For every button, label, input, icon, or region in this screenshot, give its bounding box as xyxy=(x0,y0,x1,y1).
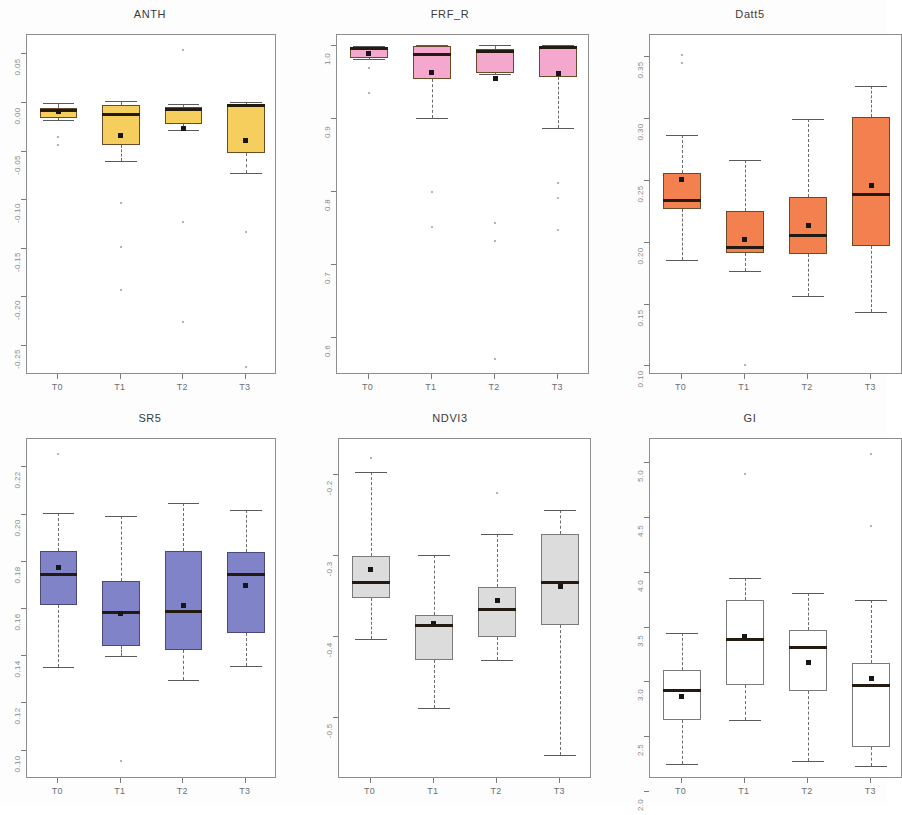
upper-whisker xyxy=(745,160,746,211)
y-axis-tick-label: 0.15 xyxy=(635,304,647,332)
lower-whisker xyxy=(682,720,683,764)
upper-whisker xyxy=(682,633,683,670)
lower-whisker-cap xyxy=(855,312,887,313)
median-line xyxy=(40,573,78,576)
upper-whisker xyxy=(58,513,59,551)
upper-whisker-cap xyxy=(168,503,200,504)
lower-whisker xyxy=(808,691,809,761)
upper-whisker xyxy=(808,119,809,197)
outlier-point xyxy=(120,246,122,248)
x-axis-tick xyxy=(120,778,121,783)
upper-whisker xyxy=(682,135,683,173)
mean-marker xyxy=(495,598,500,603)
lower-whisker-cap xyxy=(544,755,576,756)
upper-whisker-cap xyxy=(230,102,262,103)
x-axis-tick xyxy=(368,374,369,379)
mean-marker xyxy=(243,583,248,588)
x-axis-tick-label: T3 xyxy=(537,382,577,392)
y-axis-tick-label: -0.3 xyxy=(324,555,336,583)
mean-marker xyxy=(118,133,123,138)
panel-title: NDVI3 xyxy=(300,412,600,424)
lower-whisker xyxy=(871,246,872,312)
upper-whisker xyxy=(183,503,184,551)
lower-whisker xyxy=(745,685,746,720)
median-line xyxy=(539,46,577,49)
lower-whisker xyxy=(558,77,559,128)
mean-marker xyxy=(869,183,874,188)
upper-whisker xyxy=(871,600,872,663)
y-axis-tick-label: 0.05 xyxy=(12,53,24,81)
y-axis-tick-label: 2.0 xyxy=(635,791,647,815)
lower-whisker-cap xyxy=(729,271,761,272)
x-axis-tick-label: T1 xyxy=(413,786,453,796)
median-line xyxy=(165,108,203,111)
x-axis-tick-label: T2 xyxy=(787,382,827,392)
panel-sr5: SR50.220.200.180.160.140.120.10T0T1T2T3 xyxy=(0,404,300,804)
outlier-point xyxy=(245,231,247,233)
upper-whisker-cap xyxy=(418,555,450,556)
x-axis-tick xyxy=(245,778,246,783)
lower-whisker xyxy=(434,660,435,708)
mean-marker xyxy=(806,223,811,228)
lower-whisker xyxy=(246,153,247,173)
y-axis-tick-label: 0.00 xyxy=(12,102,24,130)
y-axis-tick-label: 3.5 xyxy=(635,627,647,655)
x-axis-tick xyxy=(807,778,808,783)
mean-marker xyxy=(558,584,563,589)
x-axis-tick xyxy=(431,374,432,379)
mean-marker xyxy=(742,237,747,242)
lower-whisker-cap xyxy=(792,296,824,297)
upper-whisker-cap xyxy=(105,101,137,102)
y-axis-tick-label: 0.12 xyxy=(12,702,24,730)
outlier-point xyxy=(431,191,433,193)
median-line xyxy=(227,573,265,576)
lower-whisker-cap xyxy=(230,173,262,174)
upper-whisker-cap xyxy=(729,160,761,161)
lower-whisker-cap xyxy=(666,260,698,261)
x-axis-tick-label: T2 xyxy=(474,382,514,392)
y-axis-tick-label: 0.20 xyxy=(635,242,647,270)
x-axis-tick-label: T2 xyxy=(162,382,202,392)
lower-whisker xyxy=(497,637,498,660)
mean-marker xyxy=(368,567,373,572)
plot-area xyxy=(649,438,902,778)
x-axis-tick-label: T3 xyxy=(225,786,265,796)
lower-whisker-cap xyxy=(105,161,137,162)
x-axis-tick-label: T3 xyxy=(850,382,890,392)
mean-marker xyxy=(679,177,684,182)
lower-whisker xyxy=(183,650,184,680)
box-T2 xyxy=(165,551,203,650)
x-axis-tick-label: T1 xyxy=(411,382,451,392)
x-axis-tick-label: T0 xyxy=(37,382,77,392)
y-axis-tick-label: 0.22 xyxy=(12,466,24,494)
median-line xyxy=(102,113,140,116)
panel-ndvi3: NDVI3-0.2-0.3-0.4-0.5T0T1T2T3 xyxy=(300,404,600,804)
y-axis-tick-label: 0.16 xyxy=(12,608,24,636)
lower-whisker xyxy=(432,79,433,118)
lower-whisker-cap xyxy=(43,120,75,121)
y-axis-tick-label: 0.7 xyxy=(322,264,334,292)
outlier-point xyxy=(681,54,683,56)
mean-marker xyxy=(429,70,434,75)
x-axis-tick xyxy=(681,374,682,379)
upper-whisker xyxy=(371,472,372,556)
panel-title: SR5 xyxy=(0,412,300,424)
plot-area xyxy=(338,438,591,778)
upper-whisker-cap xyxy=(105,516,137,517)
x-axis-tick xyxy=(370,778,371,783)
outlier-point xyxy=(744,364,746,366)
x-axis-tick-label: T2 xyxy=(476,786,516,796)
y-axis-tick-label: -0.25 xyxy=(12,345,24,373)
x-axis-tick-label: T1 xyxy=(100,382,140,392)
lower-whisker-cap xyxy=(792,761,824,762)
x-axis-tick-label: T0 xyxy=(348,382,388,392)
upper-whisker-cap xyxy=(792,593,824,594)
lower-whisker-cap xyxy=(43,667,75,668)
y-axis-tick-label: -0.4 xyxy=(324,636,336,664)
outlier-point xyxy=(120,202,122,204)
median-line xyxy=(789,234,827,237)
x-axis-tick-label: T2 xyxy=(787,786,827,796)
outlier-point xyxy=(120,760,122,762)
box-T3 xyxy=(541,534,579,625)
y-axis-tick-label: 0.30 xyxy=(635,118,647,146)
